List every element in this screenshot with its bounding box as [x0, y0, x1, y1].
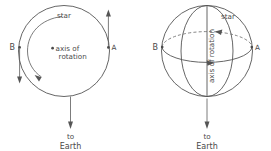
left-point-b-arrowhead [17, 76, 22, 83]
left-line-of-sight-arrowhead [68, 122, 73, 129]
left-to-earth-line1: to [67, 132, 74, 141]
right-axis-label: axis of rotation [207, 29, 216, 83]
left-point-a-label: A [112, 43, 117, 52]
left-axis-label-line2: rotation [59, 52, 87, 61]
right-point-a-label: A [255, 43, 260, 52]
left-point-a-dot [107, 46, 110, 49]
stellar-rotation-figure: star axis of rotation A B to Earth [0, 0, 271, 151]
left-point-a-arrowhead [106, 10, 111, 17]
right-point-b-dot [161, 46, 164, 49]
left-point-b-label: B [10, 43, 16, 52]
right-panel-group: star axis of rotation A B to Earth [153, 6, 261, 151]
figure-canvas: star axis of rotation A B to Earth [0, 0, 271, 151]
right-to-earth-line2: Earth [196, 142, 217, 151]
left-panel-group: star axis of rotation A B to Earth [10, 6, 117, 151]
left-to-earth-line2: Earth [60, 142, 81, 151]
left-star-label: star [57, 11, 71, 20]
right-to-earth-line1: to [203, 132, 210, 141]
right-line-of-sight-arrowhead [205, 122, 210, 129]
right-star-label: star [221, 12, 235, 21]
right-point-a-dot [251, 46, 254, 49]
right-point-b-label: B [153, 43, 159, 52]
left-axis-dot [51, 47, 54, 50]
left-point-b-dot [18, 46, 21, 49]
